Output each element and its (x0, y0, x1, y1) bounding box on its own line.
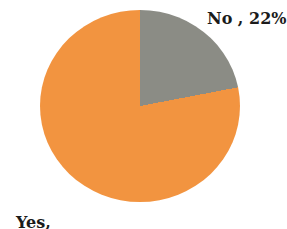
yes-slice-label-line1: Yes, (16, 214, 53, 229)
pie (40, 10, 240, 202)
yes-slice-label: Yes, 78% (16, 177, 53, 229)
no-slice-label: No , 22% (207, 10, 286, 28)
pie-chart-figure: No , 22% Yes, 78% (0, 0, 287, 229)
